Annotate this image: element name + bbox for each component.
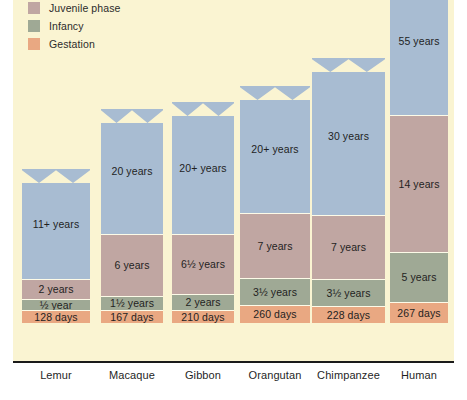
segment-value-label: 14 years <box>398 179 439 190</box>
segment-value-label: 2 years <box>38 284 73 295</box>
torn-top-edge-icon <box>240 85 310 100</box>
bar-stack: 20 years6 years1½ years167 days <box>101 109 163 323</box>
bar-segment-lemur-infancy: ½ year <box>22 299 90 310</box>
bar-segment-gibbon-adult: 20+ years <box>172 102 234 234</box>
torn-top-edge-icon <box>312 57 385 72</box>
bar-segment-human-adult: 55 years <box>390 0 448 115</box>
bar-segment-macaque-adult: 20 years <box>101 109 163 234</box>
bar-segment-lemur-gestation: 128 days <box>22 310 90 323</box>
bar-segment-human-gestation: 267 days <box>390 302 448 323</box>
bar-segment-chimpanzee-adult: 30 years <box>312 58 385 215</box>
x-axis-label-orangutan: Orangutan <box>235 369 315 381</box>
bar-column-orangutan: 20+ years7 years3½ years260 days <box>240 86 310 323</box>
primate-life-stage-chart: Juvenile phaseInfancyGestation 11+ years… <box>0 0 467 400</box>
segment-value-label: 20 years <box>111 166 152 177</box>
segment-value-label: ½ year <box>40 300 73 311</box>
bar-column-lemur: 11+ years2 years½ year128 days <box>22 169 90 323</box>
x-axis-line <box>13 361 454 363</box>
segment-value-label: 3½ years <box>327 288 371 299</box>
segment-value-label: 5 years <box>401 272 436 283</box>
segment-value-label: 20+ years <box>251 144 298 155</box>
x-axis-label-macaque: Macaque <box>96 369 168 381</box>
bar-segment-orangutan-gestation: 260 days <box>240 305 310 323</box>
x-axis-label-human: Human <box>383 369 455 381</box>
segment-value-label: 11+ years <box>33 219 80 230</box>
bar-stack: 55 years14 years5 years267 days <box>390 0 448 323</box>
bar-column-chimpanzee: 30 years7 years3½ years228 days <box>312 58 385 323</box>
torn-top-edge-icon <box>101 108 163 123</box>
segment-value-label: 55 years <box>398 36 439 47</box>
segment-value-label: 20+ years <box>179 163 226 174</box>
segment-value-label: 167 days <box>110 312 153 323</box>
x-axis-label-lemur: Lemur <box>22 369 90 381</box>
bar-segment-chimpanzee-infancy: 3½ years <box>312 279 385 306</box>
bar-segment-orangutan-adult: 20+ years <box>240 86 310 213</box>
segment-value-label: 3½ years <box>253 287 297 298</box>
segment-value-label: 260 days <box>253 309 296 320</box>
torn-top-edge-icon <box>22 168 90 183</box>
bar-stack: 11+ years2 years½ year128 days <box>22 169 90 323</box>
segment-value-label: 7 years <box>257 241 292 252</box>
bar-segment-human-infancy: 5 years <box>390 252 448 302</box>
bar-segment-orangutan-juvenile: 7 years <box>240 213 310 278</box>
bar-segment-macaque-juvenile: 6 years <box>101 234 163 296</box>
segment-value-label: 128 days <box>34 312 77 323</box>
segment-value-label: 210 days <box>181 312 224 323</box>
bar-segment-macaque-infancy: 1½ years <box>101 296 163 310</box>
segment-value-label: 30 years <box>328 131 369 142</box>
bar-segment-gibbon-juvenile: 6½ years <box>172 234 234 294</box>
segment-value-label: 1½ years <box>110 298 154 309</box>
x-axis-label-chimpanzee: Chimpanzee <box>307 369 390 381</box>
bar-segment-chimpanzee-gestation: 228 days <box>312 306 385 323</box>
segment-value-label: 228 days <box>327 310 370 321</box>
bar-segment-macaque-gestation: 167 days <box>101 310 163 323</box>
bar-segment-orangutan-infancy: 3½ years <box>240 278 310 305</box>
bar-segment-lemur-juvenile: 2 years <box>22 279 90 299</box>
bar-column-gibbon: 20+ years6½ years2 years210 days <box>172 102 234 323</box>
segment-value-label: 267 days <box>397 308 440 319</box>
segment-value-label: 2 years <box>185 297 220 308</box>
bar-stack: 20+ years6½ years2 years210 days <box>172 102 234 323</box>
bar-segment-chimpanzee-juvenile: 7 years <box>312 215 385 279</box>
torn-top-edge-icon <box>172 101 234 116</box>
bar-segment-gibbon-gestation: 210 days <box>172 310 234 323</box>
segment-value-label: 7 years <box>331 242 366 253</box>
x-axis-label-gibbon: Gibbon <box>167 369 239 381</box>
bar-segment-gibbon-infancy: 2 years <box>172 294 234 310</box>
bar-stack: 20+ years7 years3½ years260 days <box>240 86 310 323</box>
bar-stack: 30 years7 years3½ years228 days <box>312 58 385 323</box>
segment-value-label: 6½ years <box>181 259 225 270</box>
bar-segment-lemur-adult: 11+ years <box>22 169 90 279</box>
bars-area: 11+ years2 years½ year128 days20 years6 … <box>0 0 467 362</box>
bar-column-macaque: 20 years6 years1½ years167 days <box>101 109 163 323</box>
bar-column-human: 55 years14 years5 years267 days <box>390 0 448 323</box>
bar-segment-human-juvenile: 14 years <box>390 115 448 252</box>
segment-value-label: 6 years <box>114 260 149 271</box>
